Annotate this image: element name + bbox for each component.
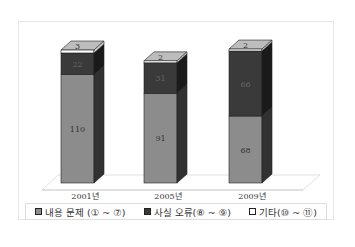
legend: 내용 문제 (① ~ ⑦) 사실 오류(⑧ ~ ⑨) 기타(⑩ ~ ⑪) bbox=[25, 203, 327, 220]
bar-value-label: 91 bbox=[155, 134, 165, 143]
bar-value-label: 2 bbox=[158, 53, 163, 62]
bar-value-label: 3 bbox=[75, 42, 80, 51]
bar-value-label: 22 bbox=[72, 60, 82, 69]
x-label-2001: 2001년 bbox=[60, 190, 110, 201]
x-label-2005: 2005년 bbox=[143, 190, 193, 201]
bar-value-label: 110 bbox=[70, 125, 85, 134]
legend-label: 내용 문제 (① ~ ⑦) bbox=[45, 205, 126, 219]
bar-value-label: 2 bbox=[243, 41, 248, 50]
legend-swatch-icon bbox=[35, 208, 42, 215]
legend-item-other: 기타(⑩ ~ ⑪) bbox=[249, 205, 317, 219]
x-label-2009: 2009년 bbox=[227, 190, 277, 201]
legend-swatch-icon bbox=[144, 208, 151, 215]
legend-item-fact: 사실 오류(⑧ ~ ⑨) bbox=[144, 205, 231, 219]
bar-value-label: 66 bbox=[240, 80, 250, 89]
legend-swatch-icon bbox=[249, 208, 256, 215]
legend-label: 사실 오류(⑧ ~ ⑨) bbox=[154, 205, 231, 219]
bar-2009년: 68662 bbox=[229, 40, 272, 183]
bar-value-label: 31 bbox=[155, 74, 165, 83]
bar-2001년: 110223 bbox=[61, 41, 104, 183]
legend-label: 기타(⑩ ~ ⑪) bbox=[259, 205, 317, 219]
bar-2005년: 91312 bbox=[144, 52, 187, 183]
bar-value-label: 68 bbox=[240, 146, 250, 155]
legend-item-content: 내용 문제 (① ~ ⑦) bbox=[35, 205, 126, 219]
